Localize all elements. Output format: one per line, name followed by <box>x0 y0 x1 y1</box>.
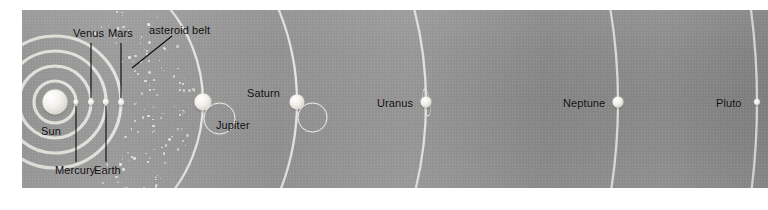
body-pluto <box>754 99 760 105</box>
body-earth <box>103 99 109 105</box>
label-mercury: Mercury <box>55 165 95 176</box>
body-venus <box>88 99 94 105</box>
earth-disc <box>103 99 109 105</box>
body-mars <box>118 99 124 105</box>
body-saturn <box>290 95 305 110</box>
saturn-ring <box>297 102 327 132</box>
label-asteroid-belt: asteroid belt <box>149 25 210 36</box>
label-neptune: Neptune <box>563 98 605 109</box>
venus-disc <box>88 99 94 105</box>
mercury-disc <box>73 99 78 104</box>
mars-disc <box>118 99 124 105</box>
label-venus: Venus <box>73 28 104 39</box>
diagram-panel: Sun Mercury Venus Earth Mars asteroid be… <box>22 10 768 188</box>
label-jupiter: Jupiter <box>216 120 250 131</box>
label-saturn: Saturn <box>247 88 280 99</box>
leader-asteroid-belt <box>132 36 172 68</box>
label-sun: Sun <box>41 126 61 137</box>
body-mercury <box>73 99 78 104</box>
pluto-disc <box>754 99 760 105</box>
body-uranus <box>421 97 432 108</box>
figure-root: Sun Mercury Venus Earth Mars asteroid be… <box>0 0 768 210</box>
label-uranus: Uranus <box>377 98 413 109</box>
label-mars: Mars <box>108 28 133 39</box>
body-jupiter <box>195 94 212 111</box>
body-sun <box>43 90 68 115</box>
sun-disc <box>43 90 68 115</box>
label-pluto: Pluto <box>716 98 742 109</box>
body-neptune <box>613 97 624 108</box>
label-earth: Earth <box>94 165 121 176</box>
neptune-disc <box>613 97 624 108</box>
